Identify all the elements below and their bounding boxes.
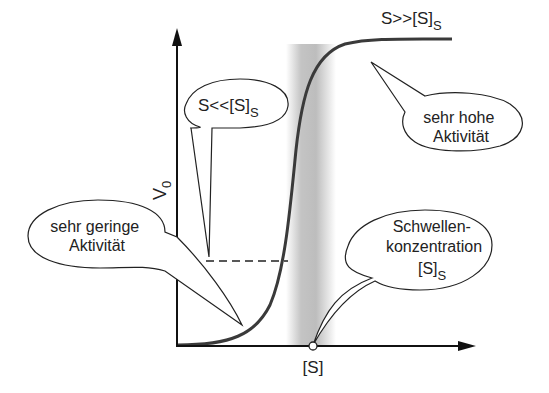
threshold-band <box>286 44 336 346</box>
threshold-diagram: S<<[S]S sehr hohe Aktivität sehr geringe… <box>0 0 549 393</box>
x-axis-label: [S] <box>303 358 324 377</box>
y-axis-arrowhead <box>172 28 182 46</box>
threshold-point-marker <box>309 342 317 350</box>
x-axis-arrowhead <box>458 341 476 351</box>
y-axis-label: V0 <box>150 181 174 200</box>
curve-top-label: S>>[S]S <box>381 9 442 33</box>
